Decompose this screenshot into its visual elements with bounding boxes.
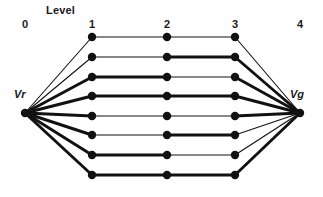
node-level3-path6 <box>231 131 239 139</box>
node-level1-path3 <box>88 73 96 81</box>
node-level1-path7 <box>88 151 96 159</box>
node-level1-path8 <box>88 171 96 179</box>
diagram-canvas: Level 0 1 2 3 4 Vr Vg <box>0 0 323 197</box>
level-header-label: Level <box>46 4 75 16</box>
node-level1-path5 <box>88 112 96 120</box>
level-number-1: 1 <box>83 18 101 30</box>
node-level1-path4 <box>88 92 96 100</box>
node-level2-path7 <box>163 151 171 159</box>
source-node-label: Vr <box>14 88 25 100</box>
node-level2-path3 <box>163 73 171 81</box>
edge-source-to-l1-path8 <box>25 113 92 175</box>
node-source-vr <box>21 109 29 117</box>
node-level3-path3 <box>231 73 239 81</box>
node-level2-path8 <box>163 171 171 179</box>
edge-l3-to-sink-path5 <box>235 113 300 116</box>
node-level2-path5 <box>163 112 171 120</box>
node-level3-path2 <box>231 53 239 61</box>
node-level3-path1 <box>231 33 239 41</box>
node-level1-path1 <box>88 33 96 41</box>
node-level3-path5 <box>231 112 239 120</box>
edge-source-to-l1-path1 <box>25 37 92 113</box>
edge-source-to-l1-path3 <box>25 77 92 113</box>
sink-node-label: Vg <box>290 88 304 100</box>
node-level2-path1 <box>163 33 171 41</box>
edge-l3-to-sink-path8 <box>235 113 300 175</box>
level-number-2: 2 <box>158 18 176 30</box>
node-level3-path4 <box>231 92 239 100</box>
edge-source-to-l1-path7 <box>25 113 92 155</box>
node-level3-path8 <box>231 171 239 179</box>
level-number-0: 0 <box>16 18 34 30</box>
node-group <box>21 33 304 179</box>
node-level2-path4 <box>163 92 171 100</box>
node-sink-vg <box>296 109 304 117</box>
node-level2-path2 <box>163 53 171 61</box>
node-level1-path6 <box>88 131 96 139</box>
level-number-3: 3 <box>226 18 244 30</box>
edge-l3-to-sink-path7 <box>235 113 300 155</box>
level-number-4: 4 <box>291 18 309 30</box>
node-level1-path2 <box>88 53 96 61</box>
edge-l3-to-sink-path1 <box>235 37 300 113</box>
node-level2-path6 <box>163 131 171 139</box>
node-level3-path7 <box>231 151 239 159</box>
edge-group <box>25 37 300 175</box>
